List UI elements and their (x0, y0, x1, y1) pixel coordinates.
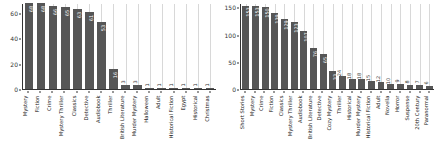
x-label-cell: Fiction (34, 91, 46, 157)
bar-cell: 61 (83, 4, 95, 89)
bar-cell: 139 (270, 4, 280, 89)
bar-cell: 123 (289, 4, 299, 89)
bar[interactable]: 66 (49, 6, 58, 89)
bar-cell: 8 (405, 4, 415, 89)
bar[interactable]: 153 (242, 6, 249, 89)
bar[interactable]: 8 (407, 85, 414, 89)
right-bar-chart-panel: 050100150 153153150139129123107766533241… (218, 0, 436, 159)
bar-value-label: 65 (65, 10, 70, 16)
x-tick-label: Historical (346, 96, 351, 120)
x-tick-mark (400, 91, 401, 93)
x-tick-mark (197, 91, 198, 93)
bar[interactable]: 7 (416, 85, 423, 89)
x-tick-mark (370, 91, 371, 93)
bar[interactable]: 12 (378, 82, 385, 89)
right-y-tick-mark (237, 8, 239, 9)
x-tick-mark (40, 91, 41, 93)
x-tick-mark (209, 91, 210, 93)
x-tick-mark (112, 91, 113, 93)
x-label-cell: Historical Fiction (168, 91, 180, 157)
bar-cell: 65 (59, 4, 71, 89)
right-y-tick-label: 150 (225, 5, 236, 11)
bar-value-label: 1 (157, 83, 162, 86)
x-tick-label: Suspense (405, 96, 410, 121)
x-tick-label: Historical Fiction (168, 96, 173, 139)
right-y-tick-mark (237, 62, 239, 63)
x-tick-label: Novella (385, 96, 390, 115)
x-tick-label: British Literature (120, 96, 125, 140)
bar[interactable]: 1 (194, 88, 203, 89)
x-label-cell: Adult (155, 91, 167, 157)
bar[interactable]: 1 (206, 88, 215, 89)
bar-value-label: 15 (366, 75, 371, 81)
bar[interactable]: 1 (157, 88, 166, 89)
bar-value-label: 3 (121, 81, 126, 84)
bar-cell: 1 (144, 4, 156, 89)
bar[interactable]: 65 (320, 54, 327, 89)
right-chart-plot-area: 1531531501391291231077665332418181512109… (240, 4, 434, 90)
bar-value-label: 61 (89, 15, 94, 21)
left-chart-y-axis: 0204060 (0, 4, 21, 90)
x-label-cell: Christmas (204, 91, 216, 157)
right-chart-bars: 1531531501391291231077665332418181512109… (241, 4, 434, 89)
bar[interactable]: 68 (37, 3, 46, 89)
left-y-tick-label: 40 (10, 36, 18, 42)
x-tick-label: Thriller (108, 96, 113, 114)
x-tick-mark (341, 91, 342, 93)
x-tick-mark (380, 91, 381, 93)
bar[interactable]: 3 (121, 85, 130, 89)
x-tick-label: Adult (156, 96, 161, 110)
bar[interactable]: 1 (169, 88, 178, 89)
bar[interactable]: 53 (97, 22, 106, 89)
bar-value-label: 1 (193, 83, 198, 86)
bar[interactable]: 68 (25, 3, 34, 89)
right-y-tick-mark (237, 35, 239, 36)
bar-value-label: 8 (405, 80, 410, 83)
x-tick-label: Crime (47, 96, 52, 111)
bar[interactable]: 65 (61, 7, 70, 89)
x-tick-mark (283, 91, 284, 93)
x-label-cell: Detective (83, 91, 95, 157)
x-tick-label: British Literature (308, 96, 313, 140)
bar[interactable]: 15 (368, 81, 375, 89)
x-label-cell: Paranormal (424, 91, 434, 157)
x-tick-label: Halloween (144, 96, 149, 123)
bar[interactable]: 1 (145, 88, 154, 89)
bar[interactable]: 18 (349, 79, 356, 89)
bar-cell: 66 (47, 4, 59, 89)
bar[interactable]: 129 (281, 19, 288, 89)
bar-cell: 1 (156, 4, 168, 89)
left-y-tick-mark (19, 90, 21, 91)
x-tick-label: Egypt (180, 96, 185, 111)
bar-value-label: 6 (424, 81, 429, 84)
bar-value-label: 68 (29, 6, 34, 12)
bar-value-label: 66 (53, 8, 58, 14)
bar[interactable]: 24 (339, 76, 346, 89)
bar[interactable]: 153 (252, 6, 259, 89)
bar-value-label: 18 (347, 73, 352, 79)
bar[interactable]: 3 (133, 85, 142, 89)
x-label-cell: Egypt (180, 91, 192, 157)
x-tick-mark (293, 91, 294, 93)
x-tick-label: 20th Century (414, 96, 419, 130)
bar-cell: 76 (309, 4, 319, 89)
right-chart-y-axis: 050100150 (218, 4, 239, 90)
left-y-tick-mark (19, 39, 21, 40)
bar[interactable]: 123 (291, 22, 298, 89)
bar[interactable]: 16 (109, 69, 118, 89)
bar[interactable]: 139 (271, 13, 278, 89)
right-chart-x-axis-labels: Short StoriesMysteryCrimeFictionClassics… (240, 91, 434, 157)
x-tick-mark (76, 91, 77, 93)
left-y-tick-label: 0 (14, 87, 18, 93)
bar[interactable]: 1 (182, 88, 191, 89)
x-label-cell: Mystery Thriller (58, 91, 70, 157)
bar[interactable]: 63 (73, 9, 82, 89)
bar-cell: 9 (396, 4, 406, 89)
bar[interactable]: 107 (300, 31, 307, 89)
bar[interactable]: 61 (85, 12, 94, 89)
bar[interactable]: 10 (387, 84, 394, 89)
bar[interactable]: 150 (262, 7, 269, 89)
bar[interactable]: 6 (426, 86, 433, 89)
bar[interactable]: 76 (310, 48, 317, 89)
bar[interactable]: 9 (397, 84, 404, 89)
